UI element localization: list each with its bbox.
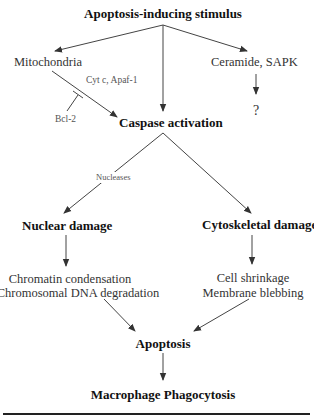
node-caspase-activation: Caspase activation	[119, 116, 223, 129]
node-chromatin-condensation: Chromatin condensation	[9, 273, 132, 286]
node-membrane-blebbing: Membrane blebbing	[202, 287, 303, 300]
node-dna-degradation: Chromosomal DNA degradation	[0, 287, 159, 300]
node-apoptosis: Apoptosis	[136, 337, 191, 350]
node-cell-shrinkage: Cell shrinkage	[217, 272, 290, 285]
node-cytoskeletal-damage: Cytoskeletal damage	[202, 218, 314, 231]
label-cytc-apaf1: Cyt c, Apaf-1	[86, 76, 137, 86]
node-ceramide-sapk: Ceramide, SAPK	[211, 56, 298, 69]
node-unknown: ?	[253, 104, 259, 118]
node-macrophage-phagocytosis: Macrophage Phagocytosis	[91, 388, 236, 401]
label-bcl2: Bcl-2	[55, 115, 76, 125]
apoptosis-pathway-diagram: Apoptosis-inducing stimulus Mitochondria…	[0, 0, 314, 419]
label-nucleases: Nucleases	[96, 173, 130, 182]
bottom-rule	[3, 413, 310, 415]
node-mitochondria: Mitochondria	[14, 56, 82, 69]
node-stimulus: Apoptosis-inducing stimulus	[84, 7, 242, 20]
node-nuclear-damage: Nuclear damage	[22, 219, 112, 232]
